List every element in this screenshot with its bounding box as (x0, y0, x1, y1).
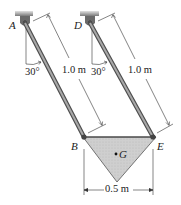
label-E: E (157, 141, 164, 152)
angle-right-label: 30° (90, 67, 107, 78)
pendulum-diagram: A D B E G 30° 30° 1.0 m 1.0 m 0.5 m (0, 0, 181, 205)
label-A: A (9, 20, 16, 31)
center-of-gravity-dot (115, 153, 118, 156)
pin-E (150, 134, 155, 139)
pin-B (81, 134, 86, 139)
dimension-AB-label: 1.0 m (61, 65, 87, 76)
label-D: D (74, 20, 82, 31)
diagram-graphics (0, 0, 181, 205)
dimension-DE-label: 1.0 m (127, 65, 153, 76)
label-G: G (119, 149, 127, 160)
label-B: B (71, 141, 78, 152)
dimension-BE-label: 0.5 m (104, 184, 130, 195)
angle-left-label: 30° (24, 67, 41, 78)
